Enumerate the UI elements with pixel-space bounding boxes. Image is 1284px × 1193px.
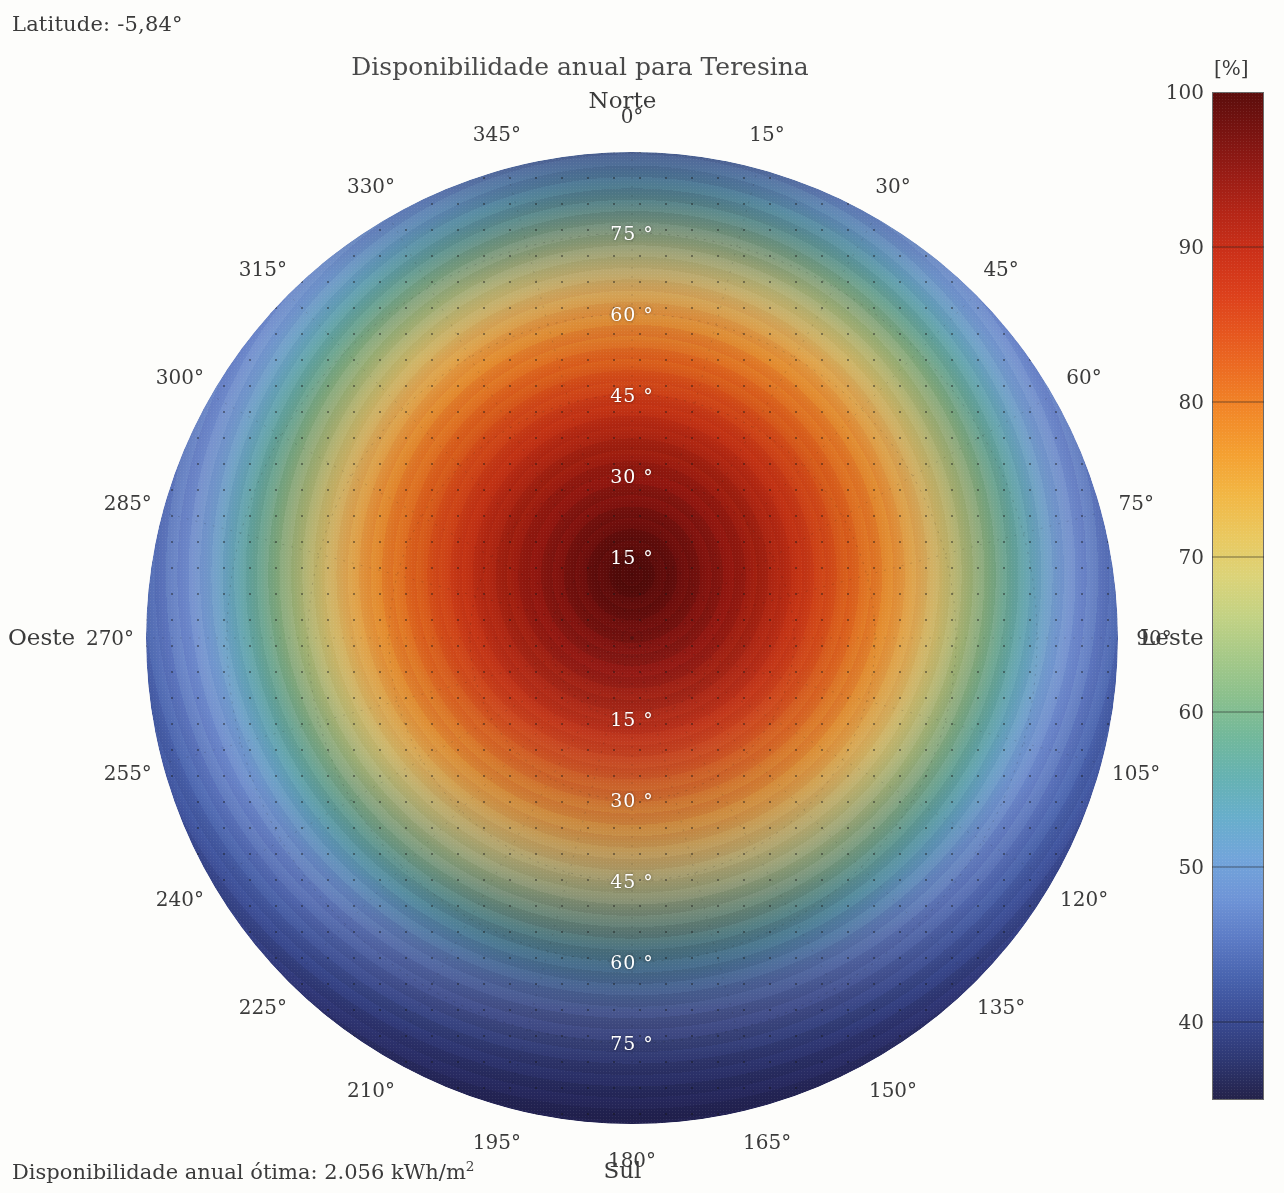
radial-tick-45-south: 45 °	[610, 870, 654, 892]
page-title: Disponibilidade anual para Teresina	[0, 52, 1160, 81]
colorbar-tick-70: 70	[1158, 545, 1204, 569]
colorbar-tick-50: 50	[1158, 855, 1204, 879]
colorbar-tick-80: 80	[1158, 390, 1204, 414]
colorbar-unit-label: [%]	[1214, 56, 1249, 80]
colorbar-tickmark-50	[1212, 867, 1264, 868]
radial-tick-15-north: 15 °	[610, 546, 654, 568]
optimal-availability-annotation: Disponibilidade anual ótima: 2.056 kWh/m…	[12, 1158, 475, 1184]
colorbar-tick-60: 60	[1158, 700, 1204, 724]
azimuth-tick-225: 225°	[239, 995, 287, 1019]
azimuth-tick-90: 90°	[1136, 626, 1171, 650]
radial-tick-60-north: 60 °	[610, 303, 654, 325]
colorbar-tick-40: 40	[1158, 1010, 1204, 1034]
azimuth-tick-315: 315°	[239, 257, 287, 281]
azimuth-tick-300: 300°	[156, 365, 204, 389]
azimuth-tick-330: 330°	[347, 174, 395, 198]
azimuth-tick-30: 30°	[875, 174, 910, 198]
azimuth-tick-45: 45°	[983, 257, 1018, 281]
radial-tick-45-north: 45 °	[610, 384, 654, 406]
optimal-availability-text: Disponibilidade anual ótima: 2.056 kWh/m	[12, 1160, 466, 1184]
azimuth-tick-15: 15°	[749, 122, 784, 146]
colorbar-tickmark-40	[1212, 1022, 1264, 1023]
azimuth-tick-0: 0°	[621, 104, 644, 128]
azimuth-tick-255: 255°	[104, 761, 152, 785]
azimuth-tick-150: 150°	[869, 1078, 917, 1102]
radial-gridlines	[146, 152, 1118, 1124]
colorbar-tickmark-70	[1212, 557, 1264, 558]
colorbar-tickmark-60	[1212, 712, 1264, 713]
optimal-availability-exponent: 2	[466, 1158, 475, 1174]
azimuth-tick-165: 165°	[743, 1130, 791, 1154]
azimuth-tick-210: 210°	[347, 1078, 395, 1102]
cardinal-label-west: Oeste	[8, 624, 75, 650]
azimuth-tick-60: 60°	[1066, 365, 1101, 389]
colorbar-tickmark-80	[1212, 402, 1264, 403]
azimuth-tick-180: 180°	[608, 1148, 656, 1172]
radial-tick-75-north: 75 °	[610, 222, 654, 244]
radial-tick-30-south: 30 °	[610, 789, 654, 811]
colorbar-gradient[interactable]	[1212, 92, 1264, 1100]
radial-tick-15-south: 15 °	[610, 708, 654, 730]
azimuth-tick-135: 135°	[977, 995, 1025, 1019]
azimuth-tick-240: 240°	[156, 887, 204, 911]
azimuth-tick-105: 105°	[1112, 761, 1160, 785]
polar-heatmap[interactable]	[146, 152, 1118, 1124]
radial-tick-30-north: 30 °	[610, 465, 654, 487]
latitude-annotation: Latitude: -5,84°	[12, 12, 183, 36]
colorbar-tickmark-90	[1212, 247, 1264, 248]
colorbar-tick-100: 100	[1158, 80, 1204, 104]
radial-tick-60-south: 60 °	[610, 951, 654, 973]
azimuth-tick-195: 195°	[473, 1130, 521, 1154]
azimuth-tick-285: 285°	[104, 491, 152, 515]
azimuth-tick-345: 345°	[473, 122, 521, 146]
radial-tick-75-south: 75 °	[610, 1032, 654, 1054]
azimuth-tick-75: 75°	[1118, 491, 1153, 515]
azimuth-tick-270: 270°	[86, 626, 134, 650]
azimuth-tick-120: 120°	[1060, 887, 1108, 911]
chart-canvas: Latitude: -5,84° Disponibilidade anual p…	[0, 0, 1284, 1193]
colorbar-tick-90: 90	[1158, 235, 1204, 259]
